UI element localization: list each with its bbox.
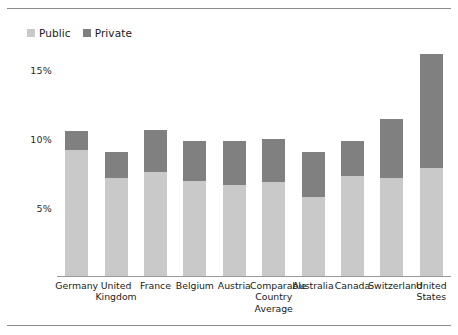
- y-axis-tick-label: 15%: [30, 65, 52, 76]
- bar-segment-private: [183, 141, 206, 181]
- bar-united-kingdom[interactable]: [105, 152, 128, 277]
- bar-segment-public: [380, 178, 403, 277]
- bar-switzerland[interactable]: [380, 119, 403, 277]
- legend-item-private[interactable]: Private: [83, 28, 132, 39]
- legend-item-label: Private: [95, 28, 132, 39]
- bar-segment-private: [144, 130, 167, 173]
- bar-united-states[interactable]: [420, 54, 443, 277]
- x-axis-baseline: [57, 276, 451, 277]
- bar-segment-public: [105, 178, 128, 277]
- plot-area: [57, 45, 451, 277]
- y-axis-tick-label: 5%: [37, 203, 52, 214]
- bar-france[interactable]: [144, 130, 167, 277]
- bar-segment-public: [65, 150, 88, 277]
- top-divider-rule: [7, 8, 451, 9]
- bar-segment-public: [262, 182, 285, 277]
- chart-figure: PublicPrivate 15%10%5% GermanyUnited Kin…: [0, 0, 458, 335]
- bar-segment-private: [380, 119, 403, 178]
- bar-segment-private: [262, 139, 285, 182]
- bar-segment-public: [302, 197, 325, 277]
- bar-segment-public: [341, 176, 364, 277]
- bar-belgium[interactable]: [183, 141, 206, 277]
- bar-germany[interactable]: [65, 131, 88, 277]
- bar-austria[interactable]: [223, 141, 246, 277]
- square-swatch-icon: [83, 29, 91, 37]
- bar-segment-public: [223, 185, 246, 277]
- y-axis-tick-label: 10%: [30, 134, 52, 145]
- bar-australia[interactable]: [302, 152, 325, 277]
- bar-canada[interactable]: [341, 141, 364, 277]
- bar-segment-public: [183, 181, 206, 277]
- bar-segment-private: [223, 141, 246, 185]
- bar-segment-public: [144, 172, 167, 277]
- bar-comparable-country-average[interactable]: [262, 139, 285, 277]
- bar-segment-private: [302, 152, 325, 197]
- bar-segment-private: [105, 152, 128, 178]
- y-axis: 15%10%5%: [0, 0, 52, 335]
- bar-segment-private: [65, 131, 88, 150]
- bar-segment-public: [420, 168, 443, 277]
- x-axis-labels: GermanyUnited KingdomFranceBelgiumAustri…: [57, 280, 451, 330]
- x-axis-label-united-states: United States: [408, 280, 455, 303]
- bar-segment-private: [420, 54, 443, 168]
- bar-segment-private: [341, 141, 364, 177]
